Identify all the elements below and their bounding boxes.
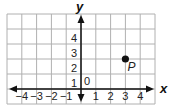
plotted-points: P	[122, 55, 136, 74]
x-tick-label: 1	[93, 90, 99, 102]
y-tick-label: 1	[71, 77, 77, 89]
x-tick-label: 4	[137, 90, 143, 102]
x-tick-label: −4	[16, 90, 29, 102]
origin-label: 0	[84, 75, 90, 87]
x-tick-label: −1	[60, 90, 73, 102]
y-tick-label: 4	[71, 32, 77, 44]
x-tick-label: −3	[30, 90, 43, 102]
x-axis-right-arrow-icon	[146, 86, 154, 93]
coordinate-plane: −4−3−2−112341234 P x y 0	[0, 0, 175, 108]
x-tick-label: −2	[45, 90, 58, 102]
tick-labels: −4−3−2−112341234	[16, 32, 144, 102]
x-axis-label: x	[159, 81, 168, 96]
y-tick-label: 3	[71, 47, 77, 59]
x-tick-label: 3	[122, 90, 128, 102]
x-tick-label: 2	[108, 90, 114, 102]
y-axis-label: y	[75, 0, 84, 14]
y-axis-down-arrow-icon	[78, 94, 85, 102]
point-label: P	[127, 60, 135, 74]
y-axis-up-arrow-icon	[78, 15, 85, 23]
y-tick-label: 2	[71, 62, 77, 74]
